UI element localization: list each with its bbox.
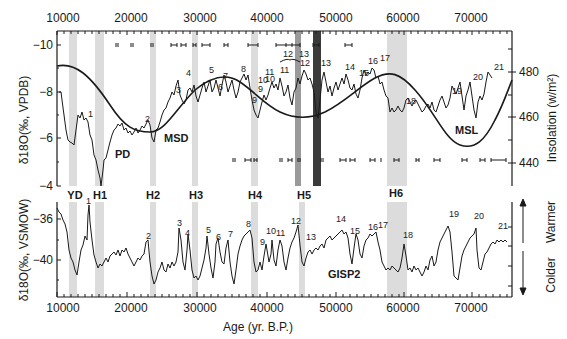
paleoclimate-figure: 10000 20000 30000 40000 50000 60000 7000… <box>0 0 567 339</box>
y-tick: −8 <box>39 85 53 99</box>
svg-text:5: 5 <box>209 65 214 75</box>
svg-text:18: 18 <box>403 230 413 240</box>
svg-text:20: 20 <box>474 211 484 221</box>
y-tick: −36 <box>33 212 54 226</box>
top-shaded-bands <box>69 31 407 186</box>
bottom-dating-error-bars <box>233 158 506 162</box>
top-left-y-axis-label: δ18O(‰, VPDB) <box>17 76 31 165</box>
bottom-x-tick-labels: 10000 20000 30000 40000 50000 60000 7000… <box>46 301 488 315</box>
x-axis-label: Age (yr. B.P.) <box>223 320 293 334</box>
dark-band <box>313 31 321 186</box>
bottom-shaded-bands <box>69 202 407 297</box>
pd-label: PD <box>115 148 130 160</box>
svg-text:10: 10 <box>266 226 276 236</box>
x-tick: 10000 <box>46 301 80 315</box>
top-x-tick: 60000 <box>386 11 420 25</box>
svg-text:1: 1 <box>86 196 91 206</box>
insolation-tick: 460 <box>519 110 539 124</box>
svg-text:19: 19 <box>452 86 462 96</box>
svg-text:3: 3 <box>177 218 182 228</box>
h4-label: H4 <box>248 189 263 201</box>
h3-label: H3 <box>189 189 203 201</box>
yd-label: YD <box>67 189 82 201</box>
speleothem-record <box>59 68 492 186</box>
svg-text:17: 17 <box>378 220 388 230</box>
svg-text:12: 12 <box>300 58 310 68</box>
bottom-y-axis-label: δ18O(‰, VSMOW) <box>17 199 31 302</box>
colder-label: Colder <box>544 257 558 292</box>
svg-text:8: 8 <box>246 219 251 229</box>
svg-text:11: 11 <box>280 65 289 75</box>
svg-text:4: 4 <box>186 68 191 78</box>
msd-label: MSD <box>164 132 189 144</box>
warmer-label: Warmer <box>544 201 558 243</box>
svg-text:11: 11 <box>276 228 285 238</box>
svg-text:3: 3 <box>176 85 181 95</box>
svg-text:9: 9 <box>258 84 263 94</box>
gisp2-label: GISP2 <box>328 268 360 280</box>
top-x-tick: 10000 <box>46 11 80 25</box>
y-tick: −4 <box>39 179 53 193</box>
svg-text:9: 9 <box>260 237 265 247</box>
x-tick: 60000 <box>386 301 420 315</box>
svg-text:21: 21 <box>498 221 508 231</box>
svg-text:14: 14 <box>336 214 346 224</box>
svg-text:19: 19 <box>449 209 459 219</box>
x-tick: 50000 <box>319 301 353 315</box>
top-x-tick: 20000 <box>114 11 148 25</box>
svg-text:14: 14 <box>345 62 355 72</box>
h2-label: H2 <box>146 189 160 201</box>
svg-text:1: 1 <box>88 109 93 119</box>
svg-text:13: 13 <box>306 232 316 242</box>
y-tick: −10 <box>33 38 54 52</box>
y-tick: −6 <box>39 131 53 145</box>
svg-text:13: 13 <box>321 58 331 68</box>
svg-text:11: 11 <box>265 67 274 77</box>
top-x-tick: 70000 <box>454 11 488 25</box>
bottom-y-tick-labels: −36 −40 <box>33 212 54 267</box>
y-tick: −40 <box>33 253 54 267</box>
svg-text:6: 6 <box>218 82 223 92</box>
gisp2-record <box>57 205 507 284</box>
top-right-y-tick-labels: 480 460 440 <box>519 65 539 170</box>
svg-text:7: 7 <box>228 229 233 239</box>
msl-label: MSL <box>455 124 479 136</box>
svg-text:12: 12 <box>291 216 301 226</box>
x-tick: 40000 <box>250 301 284 315</box>
x-tick: 30000 <box>183 301 217 315</box>
insolation-curve <box>57 65 512 146</box>
h6-label: H6 <box>389 187 403 199</box>
svg-text:21: 21 <box>494 62 504 72</box>
svg-text:16: 16 <box>368 222 378 232</box>
top-x-tick: 30000 <box>183 11 217 25</box>
insolation-tick: 480 <box>519 65 539 79</box>
h1-label: H1 <box>93 189 107 201</box>
svg-text:2: 2 <box>145 114 150 124</box>
svg-text:15: 15 <box>359 68 369 78</box>
bottom-x-ticks <box>57 292 507 297</box>
svg-text:16: 16 <box>368 56 378 66</box>
arrow-up-icon <box>520 199 526 206</box>
svg-text:13: 13 <box>299 49 309 59</box>
bottom-interstadial-labels: 1 2 3 4 5 6 7 8 9 10 11 12 13 14 15 16 1… <box>86 196 508 247</box>
top-left-y-tick-labels: −10 −8 −6 −4 <box>33 38 54 193</box>
svg-text:12: 12 <box>283 49 293 59</box>
heinrich-labels: YD H1 H2 H3 H4 H5 H6 <box>67 187 403 201</box>
svg-text:5: 5 <box>206 225 211 235</box>
h5-label: H5 <box>297 189 311 201</box>
svg-text:4: 4 <box>185 228 190 238</box>
svg-text:15: 15 <box>350 226 360 236</box>
insolation-axis-label: Insolation (w/m²) <box>545 74 559 163</box>
svg-text:6: 6 <box>216 232 221 242</box>
top-x-tick-labels: 10000 20000 30000 40000 50000 60000 7000… <box>46 11 488 25</box>
svg-text:2: 2 <box>146 231 151 241</box>
top-x-tick: 50000 <box>319 11 353 25</box>
svg-text:18: 18 <box>406 96 416 106</box>
svg-text:9: 9 <box>252 95 257 105</box>
svg-text:8: 8 <box>241 64 246 74</box>
top-x-tick: 40000 <box>250 11 284 25</box>
svg-text:20: 20 <box>473 72 483 82</box>
x-tick: 70000 <box>454 301 488 315</box>
svg-text:7: 7 <box>223 71 228 81</box>
warmer-colder-indicator <box>520 199 526 295</box>
